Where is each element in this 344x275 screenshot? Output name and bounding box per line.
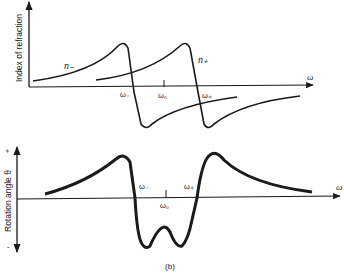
- y-axis-plus-sign: +: [4, 149, 11, 153]
- bottom-x-axis: [17, 196, 340, 199]
- n-plus-label: n₊: [198, 54, 209, 65]
- top-x-axis: [29, 85, 313, 87]
- top-y-axis-label: Index of refraction: [14, 14, 24, 82]
- omega-zero-label-top: ω₀: [158, 91, 167, 100]
- omega-plus-label-bottom: ω₊: [184, 182, 194, 191]
- bottom-y-axis-label: Rotation angle θ: [3, 170, 13, 232]
- faraday-rotation-diagram: Index of refraction n₋ n₊ ω ω₋ ω₀ ω₊ Rot…: [0, 0, 344, 275]
- omega-plus-label-top: ω₊: [202, 91, 212, 100]
- top-panel: Index of refraction n₋ n₊ ω ω₋ ω₀ ω₊: [14, 2, 313, 128]
- top-x-axis-label: ω: [307, 72, 313, 82]
- bottom-x-axis-label: ω: [336, 182, 342, 192]
- bottom-panel: Rotation angle θ + - ω ω₋ ω₀ ω₊: [3, 147, 342, 252]
- rotation-angle-curve: [45, 153, 312, 247]
- n-minus-label: n₋: [64, 60, 75, 71]
- omega-minus-label-bottom: ω₋: [139, 182, 149, 191]
- figure-caption: (b): [165, 262, 175, 271]
- omega-zero-label-bottom: ω₀: [160, 201, 169, 210]
- y-axis-minus-sign: -: [7, 242, 10, 251]
- omega-minus-label-top: ω₋: [120, 90, 130, 99]
